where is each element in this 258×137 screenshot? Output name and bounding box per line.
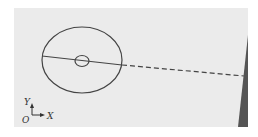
x-axis-label: X — [46, 111, 54, 121]
origin-label: O — [22, 115, 30, 125]
y-axis-label: Y — [24, 97, 31, 107]
diagram-canvas: Y X O — [0, 0, 258, 137]
diagram-background — [14, 8, 248, 127]
